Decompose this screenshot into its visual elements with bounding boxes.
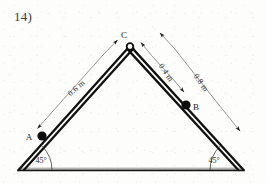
point-label-b: B [193,102,199,112]
point-label-a: A [26,132,33,142]
mechanics-diagram: 45° 45° 0.6 m 0.4 m 0.8 m C [0,0,267,183]
collar-b [181,100,190,109]
member-left [19,47,134,170]
right-angle-label: 45° [208,156,219,165]
dimension-label-0-4m: 0.4 m [157,62,176,84]
collar-a [37,131,46,140]
dimension-label-0-8m: 0.8 m [192,72,211,94]
dimension-label-0-6m: 0.6 m [66,78,87,98]
joint-c [127,43,134,50]
point-label-c: C [121,30,127,40]
figure-canvas: 14) [0,0,267,183]
left-angle-label: 45° [35,156,46,165]
